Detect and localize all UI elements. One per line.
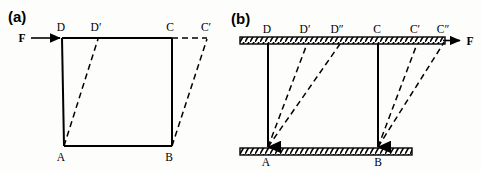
panel-b-dashed-edge-ad-double-prime — [268, 44, 340, 147]
panel-b-tag: (b) — [231, 10, 250, 27]
panel-a-tag: (a) — [8, 8, 26, 25]
panel-a-force-label: F — [18, 32, 25, 44]
panel-b-vertex-label-c-prime: C′ — [410, 23, 420, 35]
panel-a-vertex-label-d: D — [57, 21, 65, 33]
panel-a-vertex-label-c-prime: C′ — [201, 21, 211, 33]
panel-b-vertex-label-a: A — [262, 156, 271, 168]
panel-a-dashed-edge-ad-prime — [64, 39, 98, 146]
figure-svg: (a) F A B C D D′ C′ (b) — [0, 0, 481, 171]
panel-a-dashed-edge-bc-prime — [172, 39, 207, 146]
panel-b-bottom-plate — [240, 148, 412, 155]
panel-a-vertex-label-a: A — [57, 151, 66, 163]
panel-a: (a) F A B C D D′ C′ — [8, 8, 211, 163]
panel-b-vertex-label-c-double-prime: C″ — [437, 23, 450, 35]
panel-b: (b) F A B C D — [231, 10, 474, 168]
panel-a-vertex-label-c: C — [166, 21, 174, 33]
panel-b-vertex-label-d-double-prime: D″ — [330, 23, 343, 35]
panel-a-vertex-label-b: B — [165, 151, 173, 163]
panel-b-dashed-edge-ad-prime — [268, 44, 307, 147]
panel-b-top-plate — [240, 37, 445, 44]
panel-a-vertex-label-d-prime: D′ — [91, 21, 102, 33]
figure-root: (a) F A B C D D′ C′ (b) — [0, 0, 481, 171]
panel-b-vertex-label-c: C — [373, 23, 381, 35]
panel-b-force-label: F — [466, 35, 473, 47]
panel-b-vertex-label-b: B — [374, 156, 382, 168]
panel-b-vertex-label-d-prime: D′ — [300, 23, 311, 35]
panel-b-vertex-label-d: D — [263, 23, 271, 35]
panel-a-edge-ad — [62, 38, 64, 146]
